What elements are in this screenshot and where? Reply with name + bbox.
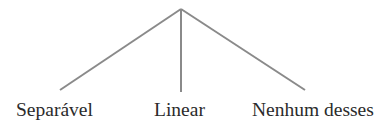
leaf-label-separavel: Separável [16, 98, 93, 122]
diagram-canvas: ........ Separável Linear Nenhum desses [0, 0, 390, 130]
branch-line-left [60, 9, 181, 90]
leaf-label-group: Separável Linear Nenhum desses [0, 98, 390, 124]
branch-line-right [181, 9, 305, 90]
leaf-label-linear: Linear [154, 98, 205, 122]
leaf-label-nenhum-desses: Nenhum desses [252, 98, 374, 122]
